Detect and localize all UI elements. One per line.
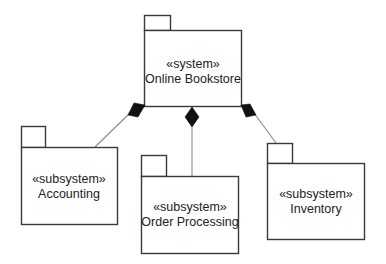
package-body xyxy=(22,148,118,225)
package-name: Accounting xyxy=(38,187,100,201)
package-online-bookstore[interactable]: «system» Online Bookstore xyxy=(145,16,242,107)
package-inventory[interactable]: «subsystem» Inventory xyxy=(268,144,365,240)
package-tab xyxy=(268,144,293,164)
package-accounting[interactable]: «subsystem» Accounting xyxy=(22,127,118,225)
package-tab xyxy=(22,127,46,148)
package-stereotype: «subsystem» xyxy=(153,200,227,214)
composition-diamond-accounting xyxy=(128,103,145,117)
composition-line-inventory xyxy=(254,113,276,143)
package-order-processing[interactable]: «subsystem» Order Processing xyxy=(141,156,238,254)
package-stereotype: «subsystem» xyxy=(32,172,106,186)
composition-line-accounting xyxy=(95,112,131,147)
package-diagram: «system» Online Bookstore «subsystem» Ac… xyxy=(0,0,386,264)
composition-diamond-inventory xyxy=(241,104,256,117)
package-stereotype: «system» xyxy=(166,57,220,71)
composition-diamond-order-processing xyxy=(185,107,199,127)
package-tab xyxy=(142,156,167,177)
package-name: Order Processing xyxy=(141,215,238,229)
package-name: Inventory xyxy=(290,202,342,216)
package-name: Online Bookstore xyxy=(145,72,241,86)
package-tab xyxy=(145,16,171,31)
package-stereotype: «subsystem» xyxy=(279,187,353,201)
